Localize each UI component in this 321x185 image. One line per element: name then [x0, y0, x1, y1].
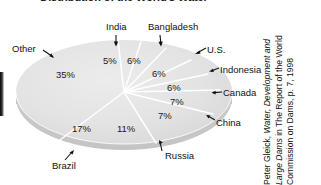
slice-label-india: India: [106, 22, 127, 32]
slice-label-russia: Russia: [165, 151, 194, 161]
slice-percent-other: 35%: [56, 70, 75, 80]
citation-line-1: Peter Gleick, Water, Development and: [262, 0, 274, 185]
slice-percent-us: 6%: [152, 69, 166, 79]
slice-label-canada: Canada: [223, 88, 256, 98]
slice-label-us: U.S.: [207, 45, 225, 55]
leader-line-us-icon: [194, 46, 208, 58]
slice-percent-russia: 11%: [117, 124, 135, 134]
figure-container: Distribution of the World's Water: [0, 0, 321, 185]
slice-label-indonesia: Indonesia: [220, 65, 261, 75]
slice-percent-india: 5%: [103, 56, 117, 66]
citation-line-3: Commission on Dams, p. 7, 1998: [285, 0, 297, 185]
leader-line-other-icon: [42, 48, 58, 62]
page-gutter-artifact: [0, 72, 4, 116]
leader-line-indonesia-icon: [208, 65, 221, 76]
slice-label-bangladesh: Bangladesh: [148, 22, 198, 32]
leader-line-china-icon: [204, 113, 217, 126]
slice-percent-brazil: 17%: [72, 124, 91, 134]
slice-percent-canada: 7%: [170, 97, 184, 107]
slice-label-china: China: [216, 118, 241, 128]
slice-label-other: Other: [12, 44, 36, 54]
slice-percent-bangladesh: 6%: [127, 56, 141, 66]
slice-percent-china: 7%: [158, 111, 172, 121]
leader-line-brazil-icon: [62, 148, 76, 162]
leader-line-bangladesh-icon: [155, 33, 167, 47]
slice-percent-indonesia: 6%: [167, 83, 181, 93]
leader-line-india-icon: [112, 33, 122, 47]
slice-label-brazil: Brazil: [52, 161, 76, 171]
leader-line-canada-icon: [210, 88, 223, 98]
figure-title: Distribution of the World's Water: [0, 0, 248, 4]
citation-line-2: Large Dams in The Report of the World: [274, 0, 286, 185]
leader-line-russia-icon: [156, 139, 168, 153]
